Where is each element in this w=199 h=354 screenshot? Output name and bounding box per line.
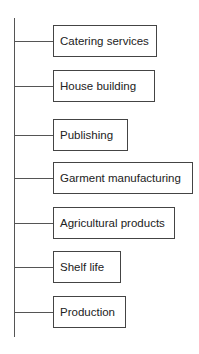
node-label: Garment manufacturing (60, 172, 181, 184)
tree-node: Production (53, 296, 126, 328)
branch-line (14, 135, 53, 136)
tree-node: Catering services (53, 25, 157, 57)
tree-node: Garment manufacturing (53, 162, 193, 194)
branch-line (14, 41, 53, 42)
tree-node: Agricultural products (53, 207, 175, 239)
branch-line (14, 223, 53, 224)
node-label: House building (60, 80, 136, 92)
node-label: Agricultural products (60, 217, 165, 229)
tree-node: Shelf life (53, 251, 121, 283)
node-label: Shelf life (60, 261, 104, 273)
branch-line (14, 86, 53, 87)
node-label: Catering services (60, 35, 149, 47)
node-label: Production (60, 306, 115, 318)
branch-line (14, 267, 53, 268)
tree-node: House building (53, 70, 155, 102)
node-label: Publishing (60, 129, 113, 141)
branch-line (14, 178, 53, 179)
branch-line (14, 312, 53, 313)
tree-node: Publishing (53, 119, 128, 151)
